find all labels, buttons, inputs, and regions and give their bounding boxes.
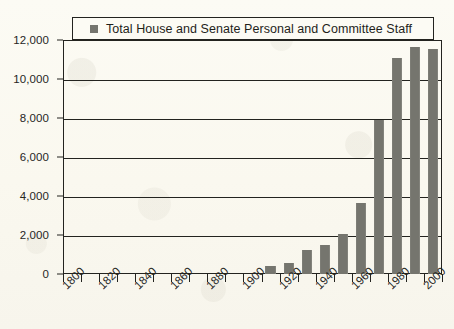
chart-legend: Total House and Senate Personal and Comm… [72,17,434,40]
y-axis-tick-label: 2,000 [20,229,49,241]
bar-chart: 02,0004,0006,0008,00010,00012,000 180018… [0,0,454,329]
bar [428,49,438,274]
legend-swatch-icon [90,25,98,33]
y-axis: 02,0004,0006,0008,00010,00012,000 [0,40,59,274]
y-axis-tick-label: 4,000 [20,190,49,202]
bar [302,250,312,274]
x-axis-labels: 1800182018401860188019001920194019601980… [63,283,442,329]
y-axis-tick-label: 6,000 [20,151,49,163]
y-axis-tick-label: 8,000 [20,112,49,124]
y-axis-tick-label: 12,000 [13,34,49,46]
y-axis-tick-label: 10,000 [13,73,49,85]
bar [392,58,402,274]
bar [338,234,348,274]
legend-label: Total House and Senate Personal and Comm… [106,22,412,36]
bar [374,120,384,274]
bar-series [63,40,442,274]
bar [356,203,366,274]
bar [410,47,420,274]
y-axis-tick-label: 0 [43,268,50,280]
